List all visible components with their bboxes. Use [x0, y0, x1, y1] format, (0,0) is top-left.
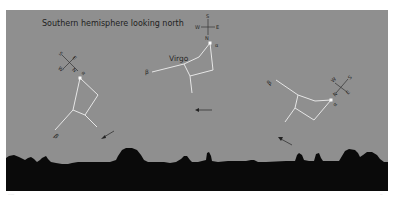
virgo-constellation-left: S E W N α β [52, 50, 114, 140]
compass-east-center: E [216, 24, 219, 30]
sky-chart: S E W N α β Virgo β [6, 10, 388, 191]
footer-mark-left: ····· [8, 192, 14, 197]
virgo-constellation-center: Virgo β α S W E N [145, 13, 219, 112]
virgo-sky-diagram: Southern hemisphere looking north S E W … [6, 10, 388, 191]
compass-west-left: W [57, 65, 65, 73]
constellation-label: Virgo [169, 54, 189, 63]
alpha-star-center [209, 42, 212, 45]
motion-arrow-right [278, 137, 292, 145]
motion-arrow-center [195, 108, 212, 112]
compass-west-right: W [329, 76, 337, 84]
footer-mark-right: ·· [380, 192, 383, 197]
alpha-star-right [330, 99, 333, 102]
motion-arrow-left [101, 131, 114, 139]
virgo-constellation-right: β W S E N α [265, 74, 353, 145]
horizon-silhouette [6, 148, 388, 191]
compass-center [201, 19, 215, 35]
beta-label-left: β [52, 132, 60, 140]
compass-north-center: N [205, 35, 209, 41]
alpha-star-left [79, 77, 82, 80]
compass-west-center: W [195, 24, 200, 30]
alpha-label-left: α [80, 69, 87, 76]
compass-south-center: S [206, 13, 209, 19]
compass-south-left: S [58, 50, 64, 56]
alpha-label-right: α [331, 100, 338, 107]
alpha-label-center: α [215, 42, 219, 48]
compass-east-right: E [344, 89, 350, 95]
beta-label-center: β [145, 68, 149, 76]
beta-label-right: β [265, 78, 273, 86]
